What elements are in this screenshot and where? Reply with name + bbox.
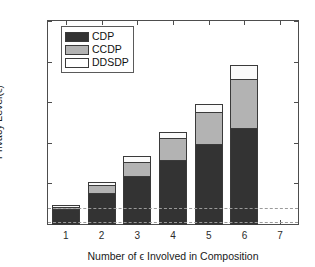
y-axis-tick-right: [294, 183, 298, 184]
legend-label-ccdp: CCDP: [92, 44, 122, 55]
bar-group: [230, 62, 258, 224]
x-axis-tick-label: 3: [135, 230, 141, 241]
legend-item-cdp: CDP: [65, 30, 129, 43]
bar-chart: Privacy Level(ϵ) Number of ϵ Involved in…: [0, 0, 315, 267]
x-axis-tick-top: [66, 21, 67, 25]
bar-group: [88, 179, 116, 224]
bar-segment-cdp: [230, 128, 258, 225]
legend-item-ddsdp: DDSDP: [65, 56, 129, 69]
x-axis-tick-label: 4: [170, 230, 176, 241]
x-axis-tick-top: [280, 21, 281, 25]
x-axis-tick-top: [209, 21, 210, 25]
y-axis-title: Privacy Level(ϵ): [0, 85, 4, 159]
y-axis-tick-right: [294, 21, 298, 22]
y-axis-tick-right: [294, 224, 298, 225]
legend-swatch-ccdp: [65, 45, 89, 55]
bar-group: [123, 153, 151, 224]
x-axis-tick-label: 6: [242, 230, 248, 241]
bar-segment-ccdp: [195, 112, 223, 145]
x-axis-tick-top: [173, 21, 174, 25]
bar-group: [52, 202, 80, 224]
bar-segment-ccdp: [123, 162, 151, 177]
bar-segment-ccdp: [159, 138, 187, 161]
bar-segment-ddsdp: [230, 65, 258, 80]
y-axis-tick: [48, 102, 52, 103]
chart-legend: CDP CCDP DDSDP: [61, 26, 134, 73]
y-axis-tick: [48, 21, 52, 22]
y-axis-tick: [48, 143, 52, 144]
x-axis-tick-top: [137, 21, 138, 25]
y-axis-tick-right: [294, 62, 298, 63]
y-axis-tick: [48, 62, 52, 63]
x-axis-tick-top: [102, 21, 103, 25]
bar-group: [195, 101, 223, 224]
bar-segment-cdp: [123, 176, 151, 225]
x-axis-tick-top: [244, 21, 245, 25]
y-axis-tick-right: [294, 143, 298, 144]
x-axis-tick-label: 1: [63, 230, 69, 241]
reference-line: [48, 208, 298, 209]
y-axis-tick: [48, 183, 52, 184]
x-axis-title: Number of ϵ Involved in Composition: [88, 250, 259, 262]
legend-label-cdp: CDP: [92, 31, 114, 42]
x-axis-tick-label: 2: [99, 230, 105, 241]
bar-segment-cdp: [159, 160, 187, 225]
bar-segment-cdp: [88, 193, 116, 225]
y-axis-tick-right: [294, 102, 298, 103]
legend-swatch-cdp: [65, 32, 89, 42]
x-axis-tick-label: 5: [206, 230, 212, 241]
legend-item-ccdp: CCDP: [65, 43, 129, 56]
legend-label-ddsdp: DDSDP: [92, 57, 129, 68]
bar-segment-ccdp: [230, 79, 258, 129]
x-axis-tick-label: 7: [277, 230, 283, 241]
legend-swatch-ddsdp: [65, 58, 89, 68]
bar-segment-cdp: [195, 144, 223, 225]
bar-group: [159, 129, 187, 224]
plot-area: 05101520251234567 CDP CCDP DDSDP: [47, 20, 299, 225]
reference-line: [48, 222, 298, 223]
